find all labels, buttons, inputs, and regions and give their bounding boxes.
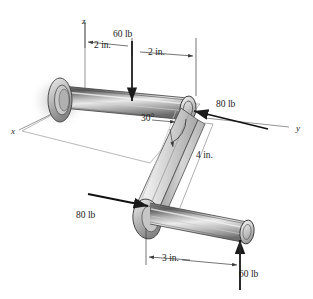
force-label-60lb-top: 60 lb: [113, 30, 132, 40]
angle-label-30deg: 30°: [141, 114, 154, 124]
axis-label-z: z: [82, 17, 86, 26]
force-label-60lb-bottom: 60 lb: [239, 270, 258, 280]
dimension-label-4in: 4 in.: [196, 151, 213, 161]
top-dimension-lines: [85, 22, 196, 96]
figure-canvas: z y x 60 lb 80 lb 80 lb 60 lb 2 in. 2 in…: [0, 0, 313, 299]
force-arrow-80lb-right: [194, 111, 268, 129]
y-axis-line: [205, 118, 289, 127]
force-label-80lb-left: 80 lb: [76, 211, 95, 221]
angle-leader-1: [152, 120, 175, 122]
dimension-label-2in-right: 2 in.: [148, 48, 165, 58]
lower-shaft: [150, 203, 256, 245]
angle-30-marker: [0, 0, 186, 147]
dim-line-3in-b: [182, 260, 237, 265]
diagram-svg: [0, 0, 313, 299]
left-flange: [48, 78, 72, 122]
axis-label-x: x: [11, 127, 15, 136]
force-label-80lb-right: 80 lb: [216, 100, 235, 110]
axis-label-y: y: [296, 124, 300, 133]
dimension-label-2in-left: 2 in.: [94, 41, 111, 51]
dimension-label-3in: 3 in.: [162, 254, 179, 264]
